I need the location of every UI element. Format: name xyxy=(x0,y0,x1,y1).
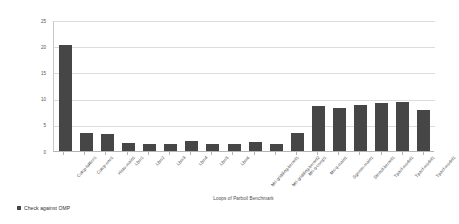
bar xyxy=(185,141,198,151)
x-axis-label: Histo-main1 xyxy=(117,155,136,176)
x-axis-label: Tpacf-model1 xyxy=(414,155,436,178)
y-tick-label-10: 10 xyxy=(30,97,46,102)
x-axis-label: Tpacf-model1 xyxy=(393,155,415,178)
x-axis-label: Stencil-kernel1 xyxy=(373,155,396,180)
x-axis-label: Sgemm-main1 xyxy=(351,155,374,180)
bar-chart: Slowdown(times) 2520151050 Cutcp-lattice… xyxy=(0,0,459,224)
bar-slot xyxy=(181,21,202,151)
bar-slot xyxy=(224,21,245,151)
bar-slot xyxy=(76,21,97,151)
bar-slot xyxy=(413,21,434,151)
bar xyxy=(333,108,346,151)
bar-slot xyxy=(55,21,76,151)
bar xyxy=(375,103,388,151)
bar-slot xyxy=(329,21,350,151)
bar-slot xyxy=(139,21,160,151)
y-tick-label-20: 20 xyxy=(30,45,46,50)
x-axis-label: Lbm5 xyxy=(218,155,229,167)
bar xyxy=(417,110,430,151)
legend: Check against OMP xyxy=(17,205,70,211)
bar-slot xyxy=(371,21,392,151)
bar xyxy=(354,105,367,151)
bar xyxy=(101,134,114,151)
x-axis-label: Cutcp-ene1 xyxy=(95,155,114,175)
bar xyxy=(143,144,156,151)
bar xyxy=(80,133,93,151)
bar-slot xyxy=(308,21,329,151)
bar xyxy=(122,143,135,151)
bar xyxy=(164,144,177,151)
bar-slot xyxy=(392,21,413,151)
bar-slot xyxy=(266,21,287,151)
bar xyxy=(59,45,72,151)
bar-slot xyxy=(160,21,181,151)
legend-swatch-check-against-omp xyxy=(17,206,21,210)
bar xyxy=(228,144,241,151)
x-axis-labels: Cutcp-lattice1Cutcp-ene1Histo-main1Lbm1L… xyxy=(53,155,434,193)
bar xyxy=(206,144,219,151)
x-axis-label: Lbm2 xyxy=(155,155,166,167)
y-tick-label-0: 0 xyxy=(30,150,46,155)
bar-slot xyxy=(350,21,371,151)
bar xyxy=(249,142,262,151)
bar-slot xyxy=(202,21,223,151)
bar xyxy=(291,133,304,151)
x-axis-label: Mri-q-main1 xyxy=(328,155,347,176)
y-tick-label-15: 15 xyxy=(30,71,46,76)
bars-container xyxy=(55,21,434,151)
x-axis-label: Lbm3 xyxy=(176,155,187,167)
bar-slot xyxy=(118,21,139,151)
x-axis-label: Lbm6 xyxy=(240,155,251,167)
bar xyxy=(396,102,409,151)
y-tick-label-5: 5 xyxy=(30,123,46,128)
y-tick-label-25: 25 xyxy=(30,19,46,24)
bar xyxy=(270,144,283,151)
x-axis-label: Tpacf-model1 xyxy=(435,155,457,178)
x-axis-title: Loops of Parboil Benchmark xyxy=(53,196,434,201)
bar-slot xyxy=(245,21,266,151)
bar-slot xyxy=(97,21,118,151)
plot-area xyxy=(53,21,434,152)
x-axis-label: Cutcp-lattice1 xyxy=(75,155,97,178)
x-axis-label: Lbm4 xyxy=(197,155,208,167)
bar-slot xyxy=(287,21,308,151)
bar xyxy=(312,106,325,151)
legend-label: Check against OMP xyxy=(24,205,70,211)
